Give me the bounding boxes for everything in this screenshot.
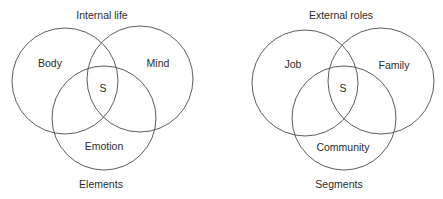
diagram-footer: Elements — [79, 178, 123, 190]
circle-mind — [87, 26, 193, 132]
set-label-body: Body — [38, 57, 63, 69]
diagram-title: Internal life — [76, 9, 128, 21]
set-label-community: Community — [316, 141, 370, 153]
diagram-footer: Segments — [315, 178, 362, 190]
venn-diagrams: Internal life Body Mind Emotion S Elemen… — [0, 0, 443, 199]
center-label: S — [339, 82, 346, 94]
diagram-title: External roles — [309, 9, 373, 21]
set-label-family: Family — [379, 59, 411, 71]
set-label-mind: Mind — [147, 57, 170, 69]
circle-body — [12, 28, 118, 134]
venn-external-roles: External roles Job Family Community S Se… — [252, 9, 434, 190]
set-label-job: Job — [285, 58, 302, 70]
set-label-emotion: Emotion — [85, 140, 124, 152]
venn-internal-life: Internal life Body Mind Emotion S Elemen… — [12, 9, 193, 190]
center-label: S — [99, 82, 106, 94]
